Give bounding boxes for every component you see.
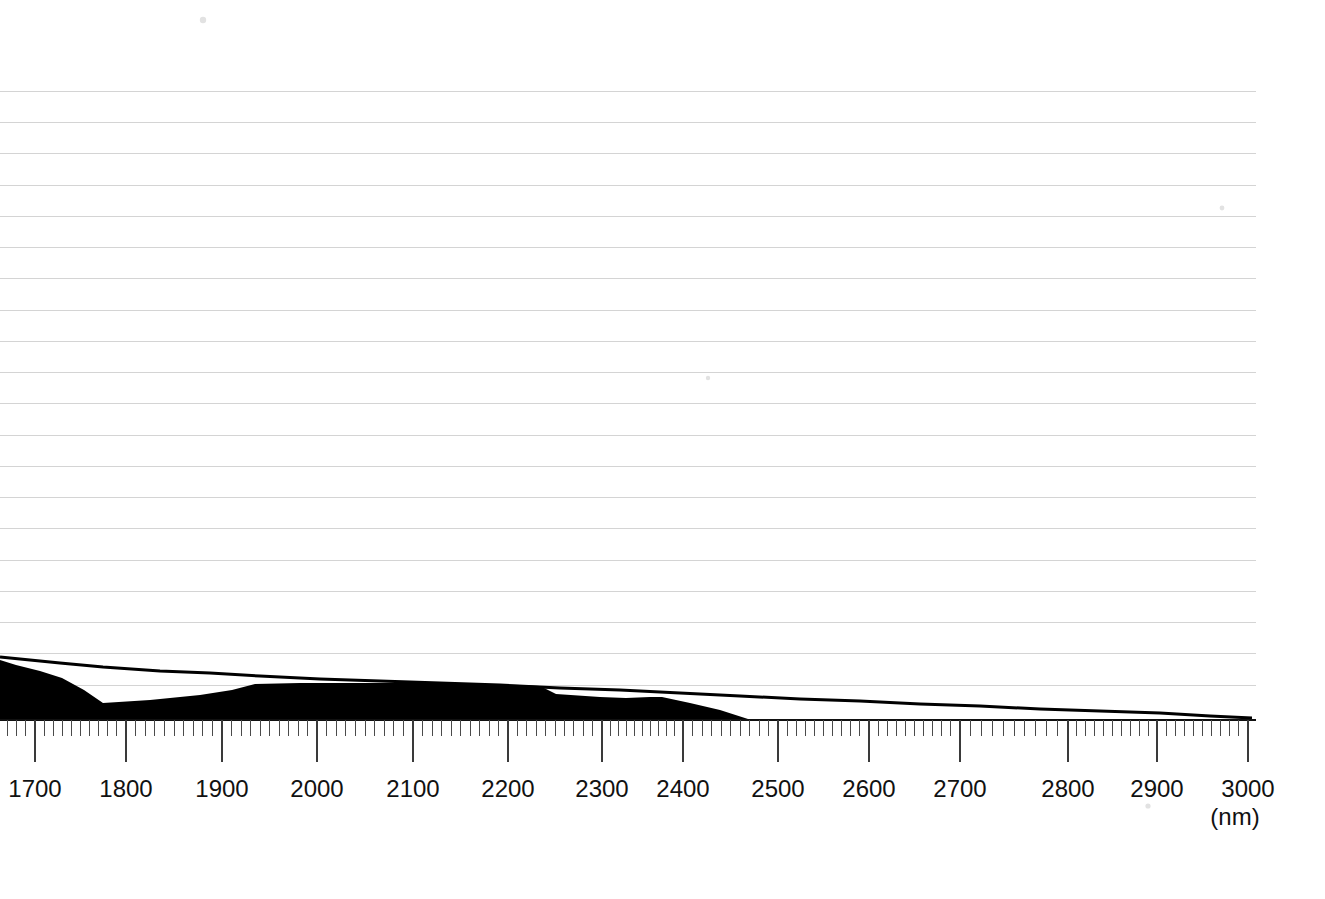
x-axis-unit-label: (nm) <box>1210 803 1259 830</box>
chart-container: 1700180019002000210022002300240025002600… <box>0 0 1325 899</box>
paper-speck-artifact <box>1145 803 1150 808</box>
horizontal-gridlines <box>0 91 1256 685</box>
x-axis-tick-label: 2200 <box>481 775 534 802</box>
x-axis-tick-label: 2500 <box>751 775 804 802</box>
paper-speck-artifact <box>706 376 710 380</box>
x-axis-major-ticks <box>35 720 1248 762</box>
x-axis-tick-label: 2600 <box>842 775 895 802</box>
x-axis-tick-label: 2700 <box>933 775 986 802</box>
x-axis <box>0 720 1256 762</box>
x-axis-tick-label: 1800 <box>99 775 152 802</box>
x-axis-tick-label: 2300 <box>575 775 628 802</box>
x-axis-tick-label: 3000 <box>1221 775 1274 802</box>
paper-speck-artifact <box>200 17 206 23</box>
paper-speck-artifact <box>1220 206 1225 211</box>
x-axis-tick-label: 2000 <box>290 775 343 802</box>
x-axis-tick-labels: 1700180019002000210022002300240025002600… <box>8 775 1274 802</box>
x-axis-tick-label: 1700 <box>8 775 61 802</box>
x-axis-tick-label: 2400 <box>656 775 709 802</box>
spectrum-chart: 1700180019002000210022002300240025002600… <box>0 0 1325 899</box>
x-axis-tick-label: 2100 <box>386 775 439 802</box>
x-axis-tick-label: 1900 <box>195 775 248 802</box>
x-axis-minor-ticks <box>8 720 1239 736</box>
x-axis-tick-label: 2800 <box>1041 775 1094 802</box>
x-axis-tick-label: 2900 <box>1130 775 1183 802</box>
